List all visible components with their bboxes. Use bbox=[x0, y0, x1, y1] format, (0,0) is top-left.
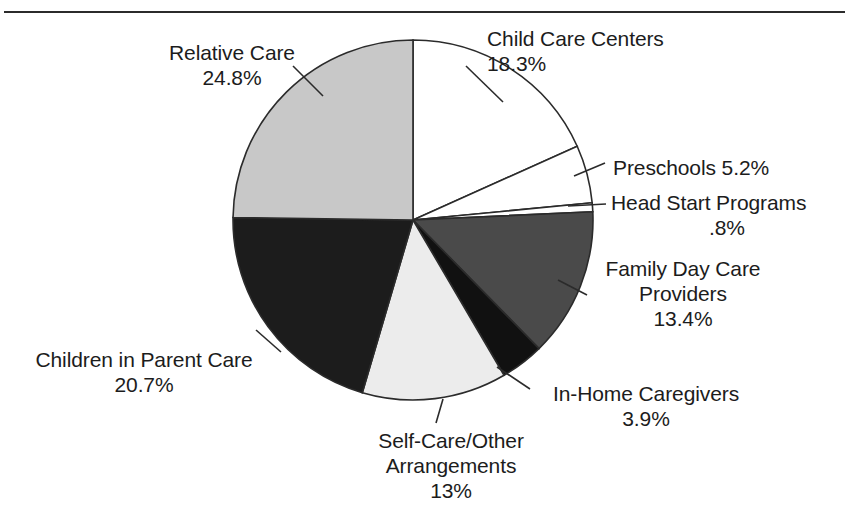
slice-label-family-day-care-providers: Family Day Care Providers 13.4% bbox=[592, 256, 774, 331]
slice-label-child-care-centers: Child Care Centers 18.3% bbox=[487, 26, 664, 76]
pie-chart-figure: Child Care Centers 18.3% Relative Care 2… bbox=[0, 0, 849, 517]
slice-label-preschools: Preschools 5.2% bbox=[613, 155, 769, 180]
slice-label-value: 18.3% bbox=[487, 51, 664, 76]
slice-label-value: 13% bbox=[345, 478, 557, 503]
slice-label-children-in-parent-care: Children in Parent Care 20.7% bbox=[12, 347, 276, 397]
slice-label-name-value: Preschools 5.2% bbox=[613, 155, 769, 180]
slice-label-name: Head Start Programs bbox=[611, 190, 843, 215]
slice-label-value: 20.7% bbox=[12, 372, 276, 397]
slice-label-name: Children in Parent Care bbox=[12, 347, 276, 372]
leader-line-self-care bbox=[436, 399, 443, 423]
slice-label-in-home-caregivers: In-Home Caregivers 3.9% bbox=[533, 381, 759, 431]
slice-label-name: In-Home Caregivers bbox=[533, 381, 759, 406]
slice-label-name: Relative Care bbox=[141, 40, 323, 65]
slice-label-value: 3.9% bbox=[533, 406, 759, 431]
slice-label-value: 24.8% bbox=[141, 65, 323, 90]
slice-label-name-line2: Providers bbox=[592, 281, 774, 306]
slice-label-name-line1: Family Day Care bbox=[592, 256, 774, 281]
slice-label-value: .8% bbox=[611, 215, 843, 240]
leader-line-in-home-caregivers bbox=[497, 367, 530, 389]
slice-label-name: Child Care Centers bbox=[487, 26, 664, 51]
pie-slices-group bbox=[233, 40, 593, 400]
slice-label-name-line1: Self-Care/Other bbox=[345, 428, 557, 453]
slice-label-self-care-other-arrangements: Self-Care/Other Arrangements 13% bbox=[345, 428, 557, 503]
slice-label-name-line2: Arrangements bbox=[345, 453, 557, 478]
slice-label-relative-care: Relative Care 24.8% bbox=[141, 40, 323, 90]
slice-label-value: 13.4% bbox=[592, 306, 774, 331]
slice-label-head-start-programs: Head Start Programs .8% bbox=[611, 190, 843, 240]
